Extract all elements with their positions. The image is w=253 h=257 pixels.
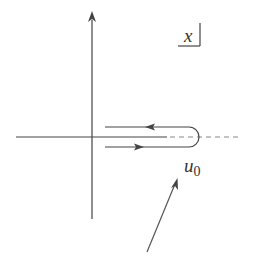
- point-label: u0: [184, 155, 201, 179]
- pointer-arrow-head-icon: [171, 178, 178, 190]
- vertical-axis: [88, 11, 96, 219]
- plane-label: x: [178, 23, 200, 46]
- contour-diagram: x u0: [0, 0, 253, 257]
- pointer-arrow: [147, 178, 178, 252]
- plane-label-text: x: [183, 25, 193, 46]
